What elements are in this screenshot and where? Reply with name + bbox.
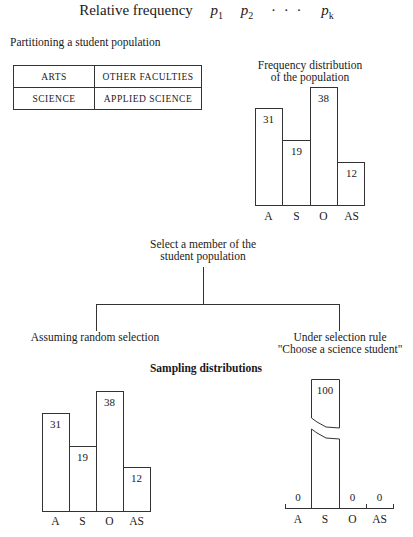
diagram-canvas bbox=[0, 0, 413, 537]
random-selection-chart bbox=[43, 392, 151, 512]
bar-other bbox=[97, 392, 124, 512]
flow-root: Select a member of the student populatio… bbox=[103, 238, 303, 262]
category-label: AS bbox=[366, 513, 393, 525]
sampling-title: Sampling distributions bbox=[106, 362, 306, 374]
bar-label: 31 bbox=[255, 113, 282, 125]
category-label: A bbox=[255, 210, 282, 222]
bar-label: 0 bbox=[366, 491, 393, 503]
bar-label: 19 bbox=[69, 451, 96, 463]
category-label: O bbox=[96, 515, 123, 527]
category-label: S bbox=[283, 210, 310, 222]
category-label: A bbox=[285, 513, 311, 525]
bar-label: 100 bbox=[311, 384, 339, 396]
bar-label: 38 bbox=[96, 396, 123, 408]
category-label: AS bbox=[123, 515, 150, 527]
flow-connectors bbox=[97, 267, 340, 331]
category-label: AS bbox=[338, 210, 365, 222]
bar-label: 38 bbox=[310, 92, 337, 104]
bar-label: 12 bbox=[123, 472, 150, 484]
category-label: O bbox=[339, 513, 366, 525]
flow-right-branch: Under selection rule "Choose a science s… bbox=[270, 331, 410, 355]
population-chart bbox=[256, 88, 365, 206]
category-label: O bbox=[310, 210, 337, 222]
bar-label: 0 bbox=[339, 491, 366, 503]
science-rule-chart bbox=[285, 380, 394, 510]
bar-label: 19 bbox=[283, 145, 310, 157]
bar-label: 12 bbox=[338, 167, 365, 179]
flow-left-branch: Assuming random selection bbox=[0, 331, 190, 343]
category-label: A bbox=[42, 515, 69, 527]
bar-label: 0 bbox=[285, 491, 311, 503]
bar-science-bottom bbox=[312, 429, 340, 508]
bar-other bbox=[311, 88, 338, 206]
category-label: S bbox=[69, 515, 96, 527]
category-label: S bbox=[311, 513, 339, 525]
bar-label: 31 bbox=[42, 418, 69, 430]
